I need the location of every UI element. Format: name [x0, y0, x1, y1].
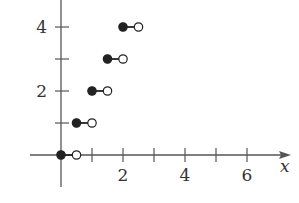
- tick-labels: 24624: [36, 17, 252, 185]
- y-tick-label: 2: [36, 81, 47, 101]
- step-function-chart: 24624 x: [0, 0, 299, 203]
- ticks: [55, 27, 247, 162]
- closed-point: [57, 151, 65, 159]
- open-point: [72, 151, 80, 159]
- closed-point: [103, 55, 111, 63]
- open-point: [134, 23, 142, 31]
- closed-point: [72, 119, 80, 127]
- closed-point: [119, 23, 127, 31]
- x-tick-label: 2: [118, 165, 129, 185]
- step-segment: [103, 55, 127, 63]
- x-tick-label: 6: [242, 165, 253, 185]
- step-segment: [119, 23, 143, 31]
- y-tick-label: 4: [36, 17, 47, 37]
- step-segment: [88, 87, 112, 95]
- step-segment: [57, 151, 81, 159]
- step-segments: [57, 23, 143, 159]
- step-segment: [72, 119, 96, 127]
- open-point: [103, 87, 111, 95]
- closed-point: [88, 87, 96, 95]
- open-point: [119, 55, 127, 63]
- open-point: [88, 119, 96, 127]
- axes: [30, 0, 291, 187]
- x-axis-label: x: [280, 156, 290, 176]
- x-tick-label: 4: [180, 165, 191, 185]
